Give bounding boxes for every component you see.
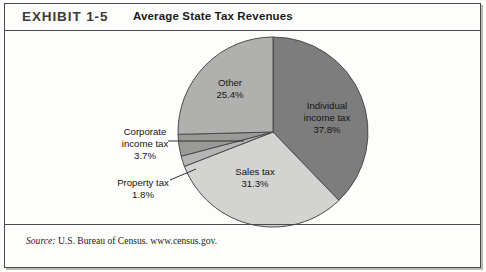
slice-label-corporate-income-tax: Corporate income tax 3.7%	[103, 126, 187, 163]
slice-label-line: Corporate	[103, 126, 187, 138]
footer-divider	[5, 224, 480, 225]
exhibit-number-label: EXHIBIT 1-5	[22, 9, 108, 24]
pie-chart: Individual income tax 37.8% Other 25.4% …	[0, 0, 486, 272]
slice-label-line: income tax	[103, 138, 187, 150]
pie-chart-svg	[0, 0, 486, 272]
page-title: Average State Tax Revenues	[133, 10, 293, 22]
exhibit-figure: EXHIBIT 1-5 Average State Tax Revenues I…	[0, 0, 486, 272]
slice-label-line: Property tax	[99, 177, 187, 189]
source-prefix: Source:	[26, 235, 55, 246]
pie-slice-group	[178, 37, 368, 227]
slice-value: 3.7%	[103, 150, 187, 162]
slice-label-property-tax: Property tax 1.8%	[99, 177, 187, 201]
source-note: Source: U.S. Bureau of Census. www.censu…	[26, 235, 217, 246]
source-text: U.S. Bureau of Census. www.census.gov.	[55, 235, 217, 246]
pie-slice-other	[178, 37, 273, 134]
header-divider	[5, 30, 480, 31]
slice-value: 1.8%	[99, 189, 187, 201]
